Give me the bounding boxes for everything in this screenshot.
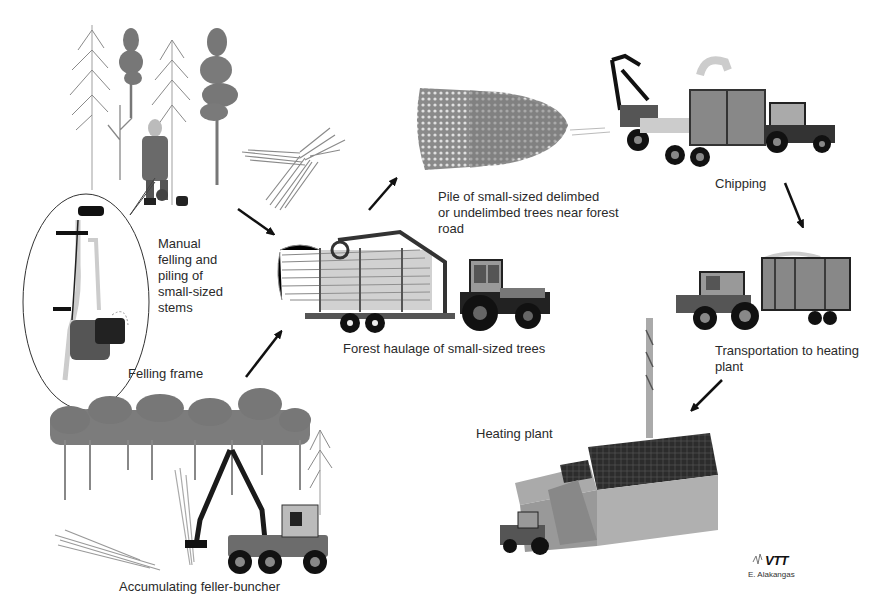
label-tree-pile: Pile of small-sized delimbed or undelimb… [438, 189, 619, 237]
label-heating-plant: Heating plant [476, 426, 553, 442]
label-transportation: Transportation to heating plant [715, 343, 859, 375]
brush-pile [242, 128, 345, 210]
arrow-manual-to-haulage [238, 209, 272, 233]
vtt-logo-wave-icon [752, 552, 766, 566]
arrow-transport-to-plant [693, 380, 722, 409]
chip-truck-illustration [676, 253, 850, 330]
label-manual-felling: Manual felling and piling of small-sized… [158, 236, 223, 316]
feller-buncher-scene [50, 388, 332, 574]
label-chipping: Chipping [715, 176, 766, 192]
forwarder-illustration [278, 232, 550, 333]
tree-pile-illustration [417, 88, 568, 170]
arrow-chipping-to-transport [785, 183, 802, 225]
arrow-haulage-to-pile [369, 180, 395, 210]
label-forest-haulage: Forest haulage of small-sized trees [343, 341, 545, 357]
chipper-illustration [570, 56, 835, 167]
manual-felling-forest [70, 25, 238, 215]
label-feller-buncher: Accumulating feller-buncher [119, 579, 280, 595]
author-credit: E. Alakangas [748, 570, 795, 579]
process-illustration [0, 0, 894, 605]
arrow-buncher-to-haulage [246, 333, 280, 377]
label-felling-frame: Felling frame [128, 366, 203, 382]
vtt-logo: VTT [765, 553, 788, 568]
